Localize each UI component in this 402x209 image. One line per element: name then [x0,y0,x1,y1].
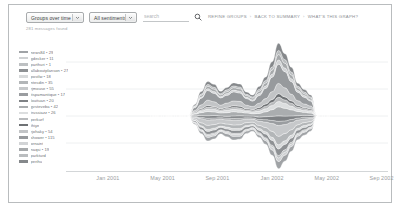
legend-swatch-icon [19,130,28,133]
sentiment-select[interactable]: All sentiments [89,12,137,23]
chevron-down-icon [125,14,135,21]
legend-item-label: ornaint [31,141,44,146]
legend-swatch-icon [19,142,28,145]
legend-item-label: parkturd [31,153,46,158]
x-axis-tick-label: Sep 2002 [370,175,394,181]
legend-swatch-icon [19,124,28,127]
screenshot-root: Groups over time All sentiments [0,0,402,209]
link-separator: › [303,14,305,19]
message-count-label: 281 messages found [26,26,68,31]
legend-swatch-icon [19,118,28,121]
legend-swatch-icon [19,148,28,151]
x-axis-tick-label: May 2002 [315,175,339,181]
legend-swatch-icon [19,112,28,115]
legend-item-label: postlw • 18 [31,74,51,79]
legend-item-label: shower • 115 [31,135,55,140]
group-select-value: Groups over time [31,15,71,21]
legend-swatch-icon [19,75,28,78]
link-refine-groups[interactable]: REFINE GROUPS [208,14,247,19]
search-icon [194,13,202,21]
x-axis-line [66,171,388,172]
legend-item-label: louituan • 20 [31,98,54,103]
toolbar-links: REFINE GROUPS › BACK TO SUMMARY › WHAT'S… [208,14,358,19]
legend-item-label: perkurf [31,117,44,122]
legend-item-label: trussiazz • 26 [31,110,56,115]
legend-item-label: naqsi • 19 [31,147,50,152]
legend-swatch-icon [19,160,28,163]
legend-item-label: allaboutplanson • 27 [31,68,69,73]
legend-swatch-icon [19,57,28,60]
legend-item-label: ntesdin • 35 [31,80,53,85]
chevron-down-icon [72,14,82,21]
x-axis-tick-label: Sep 2001 [205,175,229,181]
link-whats-this-graph[interactable]: WHAT'S THIS GRAPH? [308,14,358,19]
legend-item-label: thiye [31,123,40,128]
search-button[interactable] [193,13,202,22]
x-axis-tick-label: May 2001 [150,175,174,181]
legend-swatch-icon [19,81,28,84]
legend-item-label: rjmouse • 55 [31,86,54,91]
search-input[interactable] [143,12,189,22]
sentiment-select-value: All sentiments [94,15,127,21]
x-axis-tick-label: Jan 2001 [96,175,119,181]
legend-item-label: gdecker • 11 [31,56,54,61]
streamgraph-plot [66,35,388,170]
legend-swatch-icon [19,106,28,109]
x-axis: Jan 2001May 2001Sep 2001Jan 2002May 2002… [66,171,388,187]
legend-swatch-icon [19,63,28,66]
group-select[interactable]: Groups over time [26,12,84,23]
x-axis-tick-label: Jan 2002 [261,175,284,181]
legend-item-label: perihu [31,159,43,164]
link-separator: › [250,14,252,19]
app-frame: Groups over time All sentiments [8,4,392,203]
search-group [143,12,202,22]
legend-swatch-icon [19,136,28,139]
legend-swatch-icon [19,154,28,157]
legend-item-label: news84 • 29 [31,50,54,55]
legend-item-label: rjohaky • 54 [31,129,53,134]
legend-swatch-icon [19,93,28,96]
link-back-to-summary[interactable]: BACK TO SUMMARY [255,14,301,19]
legend-item-label: itspamantique • 17 [31,92,66,97]
legend-swatch-icon [19,87,28,90]
streamgraph-svg [66,35,388,170]
legend-item-label: gvsteveba • 42 [31,104,59,109]
legend-swatch-icon [19,100,28,103]
legend-swatch-icon [19,69,28,72]
legend-item-label: parthuri • 1 [31,62,51,67]
legend-swatch-icon [19,51,28,54]
